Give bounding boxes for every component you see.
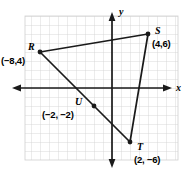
vertex-dot-t <box>128 140 133 145</box>
vertex-coords-r: (−8,4) <box>1 56 25 66</box>
vertex-coords-u: (−2, −2) <box>42 110 74 120</box>
coordinate-plane-figure: y x R (−8,4) S (4,6) T (2, −6) U (−2, −2… <box>0 0 190 173</box>
vertex-label-t: T <box>137 142 143 152</box>
vertex-coords-t: (2, −6) <box>134 155 160 165</box>
vertex-dot-u <box>92 104 97 109</box>
y-axis-label: y <box>119 7 123 17</box>
vertex-coords-s: (4,6) <box>152 39 171 49</box>
vertex-label-u: U <box>75 97 82 107</box>
vertex-label-r: R <box>28 42 35 52</box>
vertex-label-s: S <box>155 26 161 36</box>
y-axis-arrow-down <box>109 159 116 168</box>
vertex-dot-s <box>146 32 151 37</box>
coordinate-plane-svg <box>0 0 190 173</box>
vertex-dot-r <box>38 50 43 55</box>
x-axis-label: x <box>176 83 181 93</box>
x-axis-arrow-left <box>12 85 21 92</box>
